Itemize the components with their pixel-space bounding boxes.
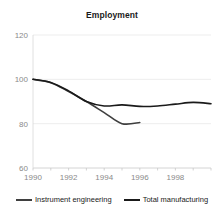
x-tick-label-1990: 1990 xyxy=(24,173,42,182)
x-tick-label-1998: 1998 xyxy=(167,173,185,182)
y-tick-label-60: 60 xyxy=(19,164,28,173)
x-tick-label-1996: 1996 xyxy=(131,173,149,182)
x-tick-label-1994: 1994 xyxy=(95,173,113,182)
y-tick-label-80: 80 xyxy=(19,120,28,129)
y-tick-label-100: 100 xyxy=(15,75,29,84)
x-tick-label-1992: 1992 xyxy=(60,173,78,182)
chart-figure: Employment 6080100120 199019921994199619… xyxy=(0,0,224,215)
axis-lines xyxy=(33,35,211,168)
gridlines xyxy=(33,35,211,168)
legend-item-total-manufacturing: Total manufacturing xyxy=(124,195,208,204)
y-tick-label-120: 120 xyxy=(15,31,29,40)
y-axis-tick-labels: 6080100120 xyxy=(15,31,29,173)
chart-legend: Instrument engineering Total manufacturi… xyxy=(0,195,224,204)
legend-label-total-manufacturing: Total manufacturing xyxy=(143,195,208,204)
legend-line-swatch-total-manufacturing xyxy=(124,199,140,201)
series-line-total-manufacturing xyxy=(33,79,211,106)
legend-line-swatch-instrument-engineering xyxy=(16,199,32,201)
line-chart-plot: 6080100120 19901992199419961998 xyxy=(0,0,224,215)
x-axis-tick-labels: 19901992199419961998 xyxy=(24,173,185,182)
legend-item-instrument-engineering: Instrument engineering xyxy=(16,195,112,204)
data-series xyxy=(33,79,211,124)
legend-label-instrument-engineering: Instrument engineering xyxy=(35,195,112,204)
